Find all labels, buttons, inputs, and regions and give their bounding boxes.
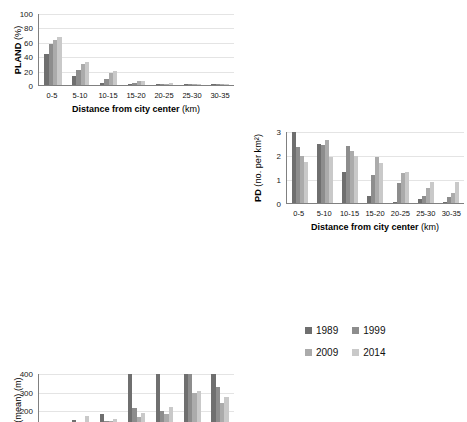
pd-x-tickmark [414, 203, 415, 204]
pland-x-tickmark [95, 85, 96, 86]
pd-y-tick: 3 [238, 128, 281, 137]
enn-bar-group [206, 374, 234, 422]
chart-pland: PLAND (%)0204060801000-55-1010-1515-2020… [0, 2, 240, 120]
enn-bar [224, 397, 228, 422]
pland-x-tickmark [39, 85, 40, 86]
legend-label: 2009 [316, 347, 338, 358]
pland-x-tick-label: 10-15 [94, 91, 122, 100]
pland-plot-area [38, 14, 234, 86]
legend-swatch [352, 349, 359, 356]
pd-x-tickmark [440, 203, 441, 204]
pd-x-tickmark [389, 203, 390, 204]
pd-bar-group [312, 132, 337, 203]
pland-bar-group [95, 14, 123, 85]
enn-bar [197, 391, 201, 422]
pd-y-tick: 0 [238, 200, 281, 209]
pd-bar-group [338, 132, 363, 203]
legend-item-1989: 1989 [305, 325, 338, 336]
pd-y-tick: 1 [238, 176, 281, 185]
enn-bar-group [39, 374, 67, 422]
enn-y-tick: 400 [0, 370, 33, 379]
pd-y-tick: 2 [238, 152, 281, 161]
pland-bar [85, 62, 89, 85]
legend-label: 1999 [363, 325, 385, 336]
pland-x-tickmark [207, 85, 208, 86]
pland-bar [141, 81, 145, 85]
pd-bar [354, 156, 358, 203]
pland-x-tick-label: 20-25 [150, 91, 178, 100]
legend-item-1999: 1999 [352, 325, 385, 336]
pd-x-axis-title: Distance from city center (km) [286, 222, 464, 232]
pd-bar-group [287, 132, 312, 203]
pland-y-tick: 0 [0, 82, 33, 91]
legend-item-2014: 2014 [352, 347, 385, 358]
legend-label: 1989 [316, 325, 338, 336]
enn-bar-group [123, 374, 151, 422]
pland-y-tick: 40 [0, 53, 33, 62]
pland-bar-group [123, 14, 151, 85]
pd-bar [379, 163, 383, 203]
pd-x-tick-label: 0-5 [286, 209, 311, 218]
pd-bar [329, 157, 333, 203]
legend-label: 2014 [363, 347, 385, 358]
pland-bar [169, 83, 173, 85]
pd-bar-group [388, 132, 413, 203]
legend-swatch [305, 349, 312, 356]
chart-enn: ENN (mean) (m)01002003004000-55-1010-151… [0, 360, 240, 422]
pland-x-tickmark [179, 85, 180, 86]
pland-y-tick: 80 [0, 24, 33, 33]
pland-x-tick-label: 30-35 [206, 91, 234, 100]
enn-bar-group [95, 374, 123, 422]
pland-bar-group [67, 14, 95, 85]
enn-bar-group [178, 374, 206, 422]
pd-bar [430, 182, 434, 203]
pland-x-axis-title: Distance from city center (km) [38, 104, 234, 114]
pland-y-tick: 20 [0, 67, 33, 76]
pd-x-tick-label: 15-20 [362, 209, 387, 218]
pland-x-tick-label: 0-5 [38, 91, 66, 100]
enn-y-tick: 300 [0, 388, 33, 397]
pland-bar [197, 84, 201, 85]
pd-x-tick-label: 20-25 [388, 209, 413, 218]
pland-y-tick: 60 [0, 38, 33, 47]
pland-bar [57, 37, 61, 85]
legend-swatch [352, 327, 359, 334]
legend-swatch [305, 327, 312, 334]
pd-x-tickmark [338, 203, 339, 204]
pd-bar [304, 162, 308, 203]
pd-x-tick-label: 5-10 [311, 209, 336, 218]
chart-legend: 1989199920092014 [305, 325, 386, 358]
pland-bar-group [206, 14, 234, 85]
pd-bar-group [439, 132, 464, 203]
pland-x-tick-label: 15-20 [122, 91, 150, 100]
pd-x-tick-label: 10-15 [337, 209, 362, 218]
enn-bar-groups [39, 374, 234, 422]
enn-bar-group [67, 374, 95, 422]
pland-bar-group [150, 14, 178, 85]
enn-y-tick: 200 [0, 407, 33, 416]
enn-bar [169, 407, 173, 422]
pd-plot-area [286, 132, 464, 204]
enn-bar [85, 416, 89, 422]
pd-x-tick-label: 30-35 [439, 209, 464, 218]
pland-bar-group [39, 14, 67, 85]
pland-x-tick-labels: 0-55-1010-1515-2020-2525-3030-35 [38, 91, 234, 100]
pland-x-tick-label: 25-30 [178, 91, 206, 100]
legend-item-2009: 2009 [305, 347, 338, 358]
pd-x-tick-labels: 0-55-1010-1515-2020-2525-3030-35 [286, 209, 464, 218]
pd-x-tickmark [363, 203, 364, 204]
enn-bar [141, 413, 145, 422]
pland-x-tick-label: 5-10 [66, 91, 94, 100]
pland-x-tickmark [67, 85, 68, 86]
pland-bar [224, 84, 228, 85]
pd-x-tickmark [312, 203, 313, 204]
pland-y-tick: 100 [0, 10, 33, 19]
chart-pd: PD (no. per km²)01230-55-1010-1515-2020-… [238, 120, 467, 238]
pd-bar-group [363, 132, 388, 203]
pland-x-tickmark [151, 85, 152, 86]
pd-bar [405, 172, 409, 203]
pd-x-tick-label: 25-30 [413, 209, 438, 218]
enn-bar-group [150, 374, 178, 422]
pland-x-tickmark [123, 85, 124, 86]
enn-plot-area [38, 374, 234, 422]
